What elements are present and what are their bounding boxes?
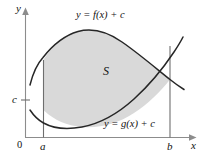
lower-curve-equation-label: y = g(x) + c — [104, 119, 155, 130]
upper-curve-equation-label: y = f(x) + c — [76, 10, 125, 21]
figure-container: y = f(x) + c y = g(x) + c S y x 0 a b c — [0, 0, 203, 163]
x-axis-label: x — [191, 140, 196, 151]
y-tick-label-c: c — [12, 94, 17, 105]
region-label-s: S — [103, 65, 109, 77]
shaded-region-s — [43, 30, 170, 127]
figure-canvas — [0, 0, 203, 163]
y-axis-label: y — [16, 3, 21, 14]
origin-label: 0 — [17, 140, 22, 151]
y-axis-arrow — [22, 8, 29, 16]
x-tick-label-b: b — [167, 141, 173, 152]
x-tick-label-a: a — [40, 141, 46, 152]
